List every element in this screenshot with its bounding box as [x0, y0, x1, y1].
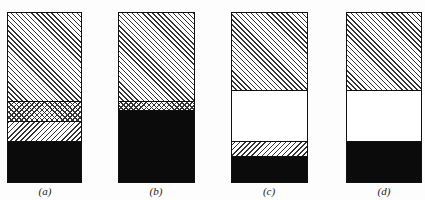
diagonal-hatch-segment [8, 13, 81, 101]
panel-b-label: (b) [118, 185, 194, 197]
diagonal-hatch-segment [119, 13, 194, 101]
reverse-hatch-segment [8, 121, 81, 141]
cross-hatch-segment [119, 101, 194, 110]
diagonal-hatch-segment [232, 13, 307, 90]
diagonal-hatch-segment [347, 13, 421, 90]
panel-d-label: (d) [346, 185, 422, 197]
panel-a-label: (a) [7, 185, 83, 197]
panel-d-column [346, 12, 422, 183]
solid-black-segment [8, 141, 81, 182]
solid-black-segment [347, 141, 421, 182]
panel-a-column [7, 12, 82, 183]
panel-b-column [118, 12, 195, 183]
blank-segment [347, 90, 421, 141]
solid-black-segment [119, 110, 194, 182]
reverse-hatch-segment [232, 141, 307, 156]
cross-hatch-segment [8, 101, 81, 121]
panel-c-column [231, 12, 308, 183]
panel-c-label: (c) [231, 185, 307, 197]
solid-black-segment [232, 156, 307, 182]
blank-segment [232, 90, 307, 141]
